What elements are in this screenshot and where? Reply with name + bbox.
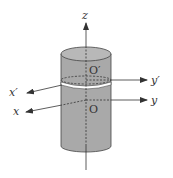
origin-label: O <box>89 103 98 116</box>
z-label: z <box>81 9 88 22</box>
x-label: x <box>13 105 20 118</box>
origin-prime-label: O′ <box>89 64 101 77</box>
y-label: y <box>150 94 158 107</box>
x-prime-label: x′ <box>9 86 18 99</box>
y-prime-label: y′ <box>150 74 160 87</box>
x-prime-axis <box>27 85 62 93</box>
cylinder-diagram: z y′ y x′ x O′ O <box>0 0 173 178</box>
